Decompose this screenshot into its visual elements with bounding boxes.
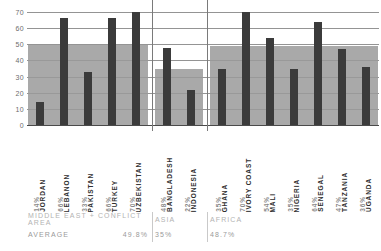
- footer-divider: [207, 212, 208, 242]
- category-labels: JORDAN14%LEBANON66%PAKISTAN33%TURKEY66%U…: [27, 134, 379, 212]
- category-label-name: TURKEY: [112, 180, 119, 212]
- y-axis-tick-label: 30: [2, 73, 24, 80]
- bar: [84, 72, 91, 125]
- category-label-name: NIGERIA: [294, 179, 301, 212]
- category-label: TANZANIA47%: [330, 134, 354, 212]
- category-label-value: 66%: [58, 196, 65, 212]
- category-label: SENEGAL64%: [306, 134, 330, 212]
- bar: [242, 12, 249, 125]
- plot-area: 706050403020100: [0, 0, 381, 133]
- category-label-name: LEBANON: [64, 174, 71, 212]
- bar: [314, 22, 321, 125]
- category-label-name: TANZANIA: [342, 172, 349, 212]
- category-label-name: UZBEKISTAN: [136, 162, 143, 212]
- category-label-name: INDONESIA: [191, 168, 198, 212]
- group-divider: [152, 0, 153, 131]
- category-label: INDONESIA22%: [179, 134, 203, 212]
- bar: [362, 67, 369, 125]
- group-divider: [207, 0, 208, 131]
- category-label-name: JORDAN: [40, 179, 47, 212]
- category-label-value: 22%: [185, 196, 192, 212]
- category-label: NIGERIA35%: [282, 134, 306, 212]
- bar: [187, 90, 194, 126]
- y-axis-tick-label: 10: [2, 105, 24, 112]
- category-label: BANGLADESH48%: [155, 134, 179, 212]
- category-label-value: 66%: [106, 196, 113, 212]
- bar: [36, 102, 43, 125]
- category-label-value: 35%: [216, 196, 223, 212]
- footer-region-name: ASIA: [155, 212, 203, 226]
- category-label-value: 14%: [34, 196, 41, 212]
- category-label: PAKISTAN33%: [76, 134, 100, 212]
- chart-footer: MIDDLE EAST + CONFLICT AREAASIAAFRICA AV…: [0, 212, 381, 251]
- footer-region-name: AFRICA: [210, 212, 378, 226]
- bar: [218, 69, 225, 126]
- category-label: IVORY COAST70%: [234, 134, 258, 212]
- footer-divider: [152, 212, 153, 242]
- footer-region-average: 48.7%: [210, 227, 378, 241]
- bar: [338, 49, 345, 125]
- category-label-name: BANGLADESH: [167, 157, 174, 212]
- gridline-overlay: [27, 28, 379, 29]
- category-label: UGANDA36%: [354, 134, 378, 212]
- y-axis-tick-label: 20: [2, 89, 24, 96]
- bar: [266, 38, 273, 125]
- category-label-name: SENEGAL: [318, 174, 325, 212]
- category-label-value: 47%: [336, 196, 343, 212]
- category-label-name: GHANA: [222, 184, 229, 212]
- category-label: GHANA35%: [210, 134, 234, 212]
- gridline-overlay: [27, 125, 379, 126]
- y-axis-tick-label: 70: [2, 9, 24, 16]
- category-label-name: MALI: [270, 193, 277, 213]
- bar: [132, 12, 139, 125]
- footer-average-row: AVERAGE49.8%35%48.7%: [0, 227, 381, 241]
- category-label-name: IVORY COAST: [246, 158, 253, 212]
- plot-canvas: [27, 0, 379, 133]
- gridline-overlay: [27, 12, 379, 13]
- category-label-value: 36%: [360, 196, 367, 212]
- gridline-overlay: [27, 44, 379, 45]
- bar: [60, 18, 67, 125]
- category-label-name: UGANDA: [366, 178, 373, 212]
- category-label: JORDAN14%: [28, 134, 52, 212]
- footer-region-row: MIDDLE EAST + CONFLICT AREAASIAAFRICA: [0, 212, 381, 226]
- y-axis-tick-label: 60: [2, 25, 24, 32]
- category-label-value: 64%: [312, 196, 319, 212]
- bar: [163, 48, 170, 125]
- bar-chart: 706050403020100 JORDAN14%LEBANON66%PAKIS…: [0, 0, 381, 251]
- gridline-overlay: [27, 77, 379, 78]
- footer-region-name: MIDDLE EAST + CONFLICT AREA: [28, 212, 148, 226]
- category-label: TURKEY66%: [100, 134, 124, 212]
- category-label: LEBANON66%: [52, 134, 76, 212]
- y-axis-tick-label: 0: [2, 122, 24, 129]
- gridline-overlay: [27, 60, 379, 61]
- category-label-value: 54%: [264, 196, 271, 212]
- y-axis-labels: 706050403020100: [0, 0, 24, 133]
- gridline-overlay: [27, 93, 379, 94]
- gridline-overlay: [27, 109, 379, 110]
- category-label-value: 70%: [130, 196, 137, 212]
- bar: [290, 69, 297, 126]
- category-label-value: 48%: [161, 196, 168, 212]
- category-label-value: 35%: [288, 196, 295, 212]
- category-label-value: 70%: [240, 196, 247, 212]
- category-label: UZBEKISTAN70%: [124, 134, 148, 212]
- footer-region-average: 49.8%: [28, 227, 148, 241]
- bar: [108, 18, 115, 125]
- category-label: MALI54%: [258, 134, 282, 212]
- category-label-value: 33%: [82, 196, 89, 212]
- footer-region-average: 35%: [155, 227, 203, 241]
- category-label-name: PAKISTAN: [88, 173, 95, 212]
- y-axis-tick-label: 50: [2, 41, 24, 48]
- y-axis-tick-label: 40: [2, 57, 24, 64]
